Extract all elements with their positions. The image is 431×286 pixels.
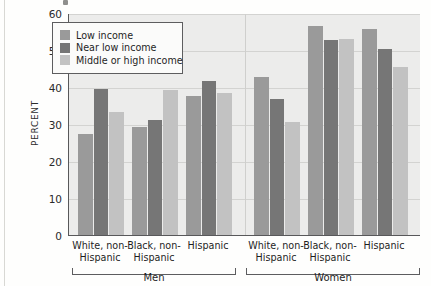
- bar-near-low-income-cat0: [94, 89, 109, 235]
- bar-low-income-cat2: [186, 96, 201, 235]
- y-axis-title: PERCENT: [30, 78, 40, 168]
- bar-near-low-income-cat2: [202, 81, 217, 235]
- legend-item-low-income: Low income: [60, 30, 175, 41]
- legend-swatch-icon-low-income: [60, 30, 70, 40]
- legend-swatch-icon-near-low-income: [60, 43, 70, 53]
- bar-middle-or-high-income-cat4: [339, 39, 354, 235]
- bar-low-income-cat3: [254, 77, 269, 235]
- bar-low-income-cat4: [308, 26, 323, 235]
- bar-low-income-cat1: [132, 127, 147, 235]
- bar-middle-or-high-income-cat0: [109, 112, 124, 235]
- bar-near-low-income-cat5: [378, 49, 393, 235]
- legend-swatch-icon-middle-or-high-income: [60, 55, 70, 65]
- legend-label-middle-or-high-income: Middle or high income: [76, 55, 183, 66]
- legend-label-low-income: Low income: [76, 30, 133, 41]
- bar-middle-or-high-income-cat5: [393, 67, 408, 235]
- bar-near-low-income-cat4: [324, 40, 339, 235]
- chart-page: 0102030405060 PERCENT Low income Near lo…: [0, 0, 431, 286]
- y-tick-label-60: 60: [22, 8, 62, 20]
- y-axis-title-wrap: PERCENT: [4, 96, 64, 156]
- bar-middle-or-high-income-cat1: [163, 90, 178, 235]
- bar-near-low-income-cat3: [270, 99, 285, 235]
- bar-near-low-income-cat1: [148, 120, 163, 235]
- bar-low-income-cat0: [78, 134, 93, 235]
- legend-item-middle-or-high-income: Middle or high income: [60, 55, 175, 66]
- bar-low-income-cat5: [362, 29, 377, 235]
- x-category-label-2: Hispanic: [172, 240, 244, 252]
- legend: Low income Near low income Middle or hig…: [52, 22, 183, 74]
- legend-item-near-low-income: Near low income: [60, 42, 175, 53]
- scan-artifact: [63, 0, 68, 5]
- group-label-women: Women: [246, 272, 420, 283]
- x-axis-category-labels: White, non-HispanicBlack, non-HispanicHi…: [0, 240, 431, 270]
- legend-label-near-low-income: Near low income: [76, 42, 157, 53]
- bar-middle-or-high-income-cat3: [285, 122, 300, 235]
- group-label-men: Men: [72, 272, 236, 283]
- bar-middle-or-high-income-cat2: [217, 93, 232, 235]
- y-tick-label-40: 40: [22, 82, 62, 94]
- y-tick-label-10: 10: [22, 193, 62, 205]
- y-tick-label-20: 20: [22, 156, 62, 168]
- x-category-label-5: Hispanic: [348, 240, 420, 252]
